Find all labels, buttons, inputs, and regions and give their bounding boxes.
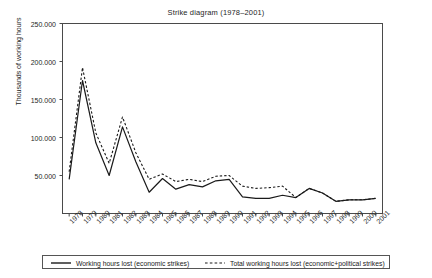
- x-axis-tick-label: 1999: [348, 208, 364, 224]
- x-axis-tick-label: 1983: [135, 208, 151, 224]
- x-axis-tick-label: 2000: [362, 208, 378, 224]
- legend-item-label: Working hours lost (economic strikes): [76, 260, 189, 267]
- x-axis-tick-label: 1982: [122, 208, 138, 224]
- chart-legend: Working hours lost (economic strikes) To…: [42, 255, 390, 269]
- legend-item-total-strikes: Total working hours lost (economic+polit…: [205, 256, 385, 270]
- x-axis-tick-label: 1993: [268, 208, 284, 224]
- x-axis-tick-labels: 1978197919801981198219831984198519861987…: [0, 0, 432, 278]
- legend-item-label: Total working hours lost (economic+polit…: [230, 260, 385, 267]
- x-axis-tick-label: 1997: [322, 208, 338, 224]
- x-axis-tick-label: 1979: [82, 208, 98, 224]
- legend-solid-line-swatch: [51, 260, 71, 266]
- x-axis-tick-label: 1991: [242, 208, 258, 224]
- x-axis-tick-label: 1988: [202, 208, 218, 224]
- x-axis-tick-label: 1985: [162, 208, 178, 224]
- x-axis-tick-label: 1998: [335, 208, 351, 224]
- legend-dashed-line-swatch: [205, 260, 225, 266]
- x-axis-tick-label: 1989: [215, 208, 231, 224]
- x-axis-tick-label: 1992: [255, 208, 271, 224]
- x-axis-tick-label: 1986: [175, 208, 191, 224]
- x-axis-tick-label: 1996: [308, 208, 324, 224]
- x-axis-tick-label: 1981: [108, 208, 124, 224]
- x-axis-tick-label: 1980: [95, 208, 111, 224]
- x-axis-tick-label: 1990: [228, 208, 244, 224]
- strike-diagram-figure: Strike diagram (1978–2001) Thousands of …: [0, 0, 432, 278]
- legend-item-economic-strikes: Working hours lost (economic strikes): [51, 256, 189, 270]
- x-axis-tick-label: 1978: [68, 208, 84, 224]
- x-axis-tick-label: 1994: [282, 208, 298, 224]
- x-axis-tick-label: 2001: [375, 208, 391, 224]
- x-axis-tick-label: 1984: [148, 208, 164, 224]
- x-axis-tick-label: 1987: [188, 208, 204, 224]
- x-axis-tick-label: 1995: [295, 208, 311, 224]
